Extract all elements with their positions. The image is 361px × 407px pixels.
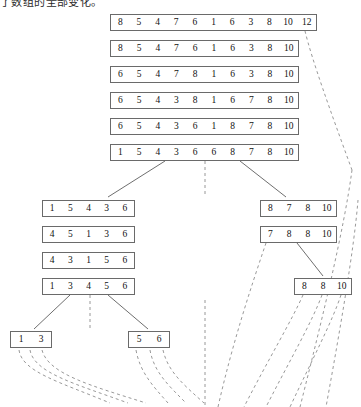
array-cell: 1 [205, 93, 224, 108]
array-cell: 4 [148, 15, 167, 30]
array-cell: 6 [111, 119, 130, 134]
array-cell: 6 [116, 227, 134, 242]
dashed-right3-c [290, 295, 341, 407]
link-left4-to-leaf-left [34, 295, 70, 329]
leaf-right: 56 [128, 331, 170, 348]
array-cell: 5 [130, 119, 149, 134]
array-cell: 5 [61, 201, 79, 216]
array-cell: 6 [223, 15, 242, 30]
array-cell: 8 [261, 67, 280, 82]
array-cell: 5 [130, 41, 149, 56]
array-cell: 6 [186, 145, 205, 160]
array-cell: 3 [61, 253, 79, 268]
array-cell: 8 [111, 15, 130, 30]
array-cell: 8 [299, 227, 318, 242]
array-cell: 6 [116, 201, 134, 216]
array-cell: 1 [111, 145, 130, 160]
array-cell: 6 [111, 93, 130, 108]
array-cell: 8 [261, 201, 280, 216]
row-1: 8547616381012 [110, 14, 317, 31]
array-cell: 8 [261, 145, 280, 160]
array-cell: 10 [279, 119, 298, 134]
row-4: 65438167810 [110, 92, 299, 109]
array-cell: 1 [205, 41, 224, 56]
link-left4-to-leaf-right [108, 295, 148, 329]
array-cell: 4 [43, 253, 61, 268]
array-cell: 8 [186, 93, 205, 108]
array-cell: 3 [31, 332, 51, 347]
row-5: 65436187810 [110, 118, 299, 135]
dashed-row1-trailing [305, 31, 352, 170]
array-cell: 10 [317, 227, 336, 242]
leaf-left: 13 [10, 331, 52, 348]
array-cell: 7 [242, 93, 261, 108]
array-cell: 1 [79, 253, 97, 268]
array-cell: 3 [242, 41, 261, 56]
array-cell: 5 [98, 279, 116, 294]
array-cell: 7 [242, 145, 261, 160]
array-cell: 1 [205, 119, 224, 134]
array-cell: 4 [148, 67, 167, 82]
array-cell: 6 [111, 67, 130, 82]
array-cell: 5 [61, 227, 79, 242]
array-cell: 10 [279, 93, 298, 108]
left-row-3: 43156 [42, 252, 135, 269]
array-cell: 8 [295, 279, 314, 294]
row-2: 85476163810 [110, 40, 299, 57]
left-row-4: 13456 [42, 278, 135, 295]
array-cell: 10 [332, 279, 351, 294]
array-cell: 7 [167, 67, 186, 82]
array-cell: 12 [297, 15, 316, 30]
dashed-leaf-right-b [150, 350, 186, 403]
array-cell: 8 [261, 119, 280, 134]
dashed-leaf-left-c [42, 350, 146, 403]
array-cell: 3 [242, 67, 261, 82]
dashed-right3-a [244, 295, 303, 407]
array-cell: 3 [98, 201, 116, 216]
array-cell: 6 [223, 41, 242, 56]
array-cell: 7 [280, 201, 299, 216]
array-cell: 1 [43, 201, 61, 216]
array-cell: 8 [261, 41, 280, 56]
array-cell: 7 [261, 227, 280, 242]
array-cell: 5 [130, 93, 149, 108]
array-cell: 5 [98, 253, 116, 268]
array-cell: 5 [130, 145, 149, 160]
array-cell: 6 [116, 279, 134, 294]
array-cell: 1 [79, 227, 97, 242]
array-cell: 4 [148, 93, 167, 108]
array-cell: 6 [186, 15, 205, 30]
array-cell: 5 [130, 15, 149, 30]
array-cell: 1 [205, 67, 224, 82]
array-cell: 4 [148, 119, 167, 134]
link-row6-to-left [108, 161, 165, 197]
array-cell: 5 [129, 332, 149, 347]
array-cell: 3 [98, 227, 116, 242]
array-cell: 10 [279, 145, 298, 160]
dashed-right3-b [266, 295, 322, 407]
left-row-2: 45136 [42, 226, 135, 243]
link-row6-to-right [240, 161, 286, 197]
array-cell: 1 [204, 15, 223, 30]
array-cell: 8 [299, 201, 318, 216]
array-cell: 4 [43, 227, 61, 242]
array-cell: 7 [167, 41, 186, 56]
array-cell: 1 [43, 279, 61, 294]
dashed-right1-drop [218, 243, 266, 407]
array-cell: 6 [186, 41, 205, 56]
right-row-3: 8810 [294, 278, 352, 295]
row-3: 65478163810 [110, 66, 299, 83]
array-cell: 3 [167, 145, 186, 160]
array-cell: 3 [241, 15, 260, 30]
array-cell: 1 [11, 332, 31, 347]
array-cell: 8 [261, 93, 280, 108]
array-cell: 6 [223, 93, 242, 108]
array-cell: 4 [79, 201, 97, 216]
array-cell: 10 [279, 15, 298, 30]
array-cell: 7 [242, 119, 261, 134]
array-cell: 6 [149, 332, 169, 347]
row-6: 15436687810 [110, 144, 299, 161]
array-cell: 4 [79, 279, 97, 294]
array-cell: 5 [130, 67, 149, 82]
array-cell: 8 [186, 67, 205, 82]
